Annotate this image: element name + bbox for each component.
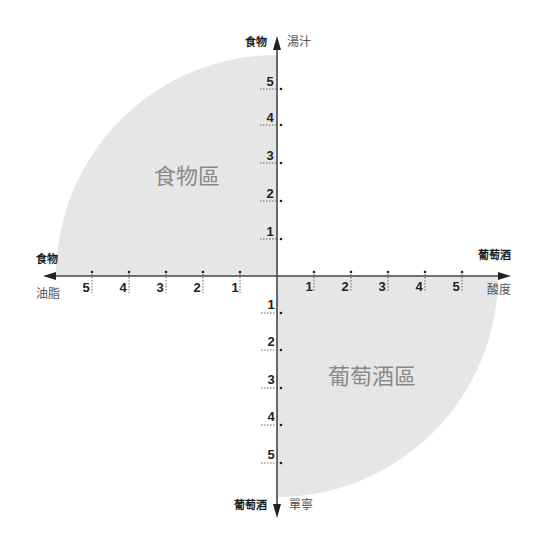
svg-text:1: 1 <box>231 280 238 295</box>
svg-text:2: 2 <box>267 334 274 349</box>
food-zone-label: 食物區 <box>154 164 220 189</box>
bottom-axis-bold-label: 葡萄酒 <box>233 498 267 512</box>
svg-text:5: 5 <box>267 447 274 462</box>
arrow-up-icon <box>273 36 281 50</box>
left-axis-bold-label: 食物 <box>36 252 58 266</box>
svg-text:2: 2 <box>193 280 200 295</box>
svg-text:5: 5 <box>266 74 273 89</box>
svg-text:4: 4 <box>415 279 423 294</box>
svg-text:1: 1 <box>305 279 312 294</box>
svg-text:4: 4 <box>267 409 275 424</box>
arrow-down-icon <box>273 504 281 518</box>
top-axis-light-label: 湯汁 <box>287 35 311 49</box>
bottom-axis-light-label: 單寧 <box>289 497 313 512</box>
top-axis-bold-label: 食物 <box>245 35 267 49</box>
svg-text:4: 4 <box>119 280 127 295</box>
svg-text:3: 3 <box>267 372 274 387</box>
svg-text:1: 1 <box>266 224 273 239</box>
arrow-left-icon <box>43 272 56 280</box>
svg-text:4: 4 <box>266 110 274 125</box>
svg-text:1: 1 <box>267 297 274 312</box>
left-axis-light-label: 油脂 <box>36 286 60 301</box>
arrow-right-icon <box>498 272 511 280</box>
svg-text:3: 3 <box>378 279 385 294</box>
svg-text:3: 3 <box>266 148 273 163</box>
svg-text:3: 3 <box>156 280 163 295</box>
right-axis-light-label: 酸度 <box>487 282 511 297</box>
wine-zone-label: 葡萄酒區 <box>328 364 416 389</box>
right-axis-bold-label: 葡萄酒 <box>477 248 511 262</box>
svg-text:5: 5 <box>82 280 89 295</box>
wine-food-pairing-diagram: 食物區 葡萄酒區 食物 湯汁 食物 油脂 葡萄酒 酸度 葡萄酒 單寧 1 <box>0 0 550 550</box>
svg-text:2: 2 <box>341 279 348 294</box>
svg-text:2: 2 <box>266 186 273 201</box>
svg-text:5: 5 <box>452 279 459 294</box>
